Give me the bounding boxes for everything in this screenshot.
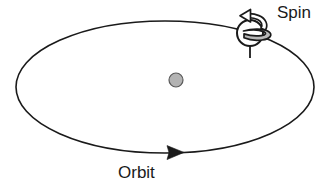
- orbit-path-ellipse: [16, 21, 314, 153]
- diagram-canvas: Spin Orbit: [0, 0, 326, 187]
- orbiting-body-circle: [237, 20, 263, 46]
- spin-label: Spin: [277, 3, 311, 22]
- orbit-direction-arrowhead: [167, 146, 184, 160]
- orbit-spin-diagram: Spin Orbit: [0, 0, 326, 187]
- orbit-label: Orbit: [118, 163, 155, 182]
- central-body-dot: [169, 73, 183, 87]
